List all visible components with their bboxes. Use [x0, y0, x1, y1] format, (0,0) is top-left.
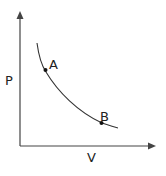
x-axis-label: V	[87, 150, 96, 165]
point-b-label: B	[100, 109, 109, 124]
y-axis-arrow-icon	[17, 11, 24, 19]
y-axis-label: P	[5, 73, 13, 88]
point-a-label: A	[49, 57, 58, 72]
pv-diagram: P V A B	[0, 0, 166, 176]
x-axis-arrow-icon	[148, 143, 156, 150]
point-a-marker	[44, 68, 48, 72]
